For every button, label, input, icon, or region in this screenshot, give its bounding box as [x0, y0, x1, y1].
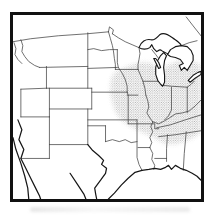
map-frame — [10, 12, 204, 202]
page: { "figure": { "title": "Range map, centr… — [0, 0, 216, 218]
scan-smudge — [30, 207, 190, 212]
us-range-map — [13, 15, 201, 199]
range-map-figure — [0, 0, 216, 218]
